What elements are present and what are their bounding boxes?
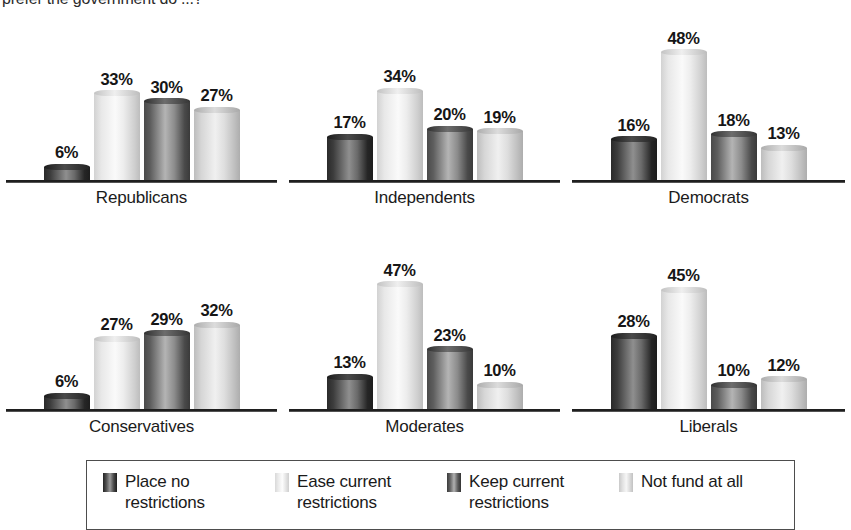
bar-series-2: [144, 98, 190, 180]
bar-cap: [427, 126, 473, 132]
bar-cap: [327, 374, 373, 380]
category-label: Liberals: [566, 417, 851, 437]
bar-value-label: 12%: [768, 357, 800, 374]
bar-series-0: [327, 134, 373, 180]
bar-series-0: [44, 393, 90, 409]
axis-baseline: [289, 180, 560, 183]
bar-item[interactable]: 48%: [661, 14, 707, 180]
bar-item[interactable]: 18%: [711, 14, 757, 180]
bar-series-0: [611, 136, 657, 180]
bar-value-label: 32%: [201, 302, 233, 319]
bar-item[interactable]: 29%: [144, 243, 190, 409]
bar-body: [327, 137, 373, 180]
legend-label-0: Place norestrictions: [125, 471, 205, 513]
bar-item[interactable]: 28%: [611, 243, 657, 409]
bar-value-label: 19%: [484, 109, 516, 126]
bar-item[interactable]: 12%: [761, 243, 807, 409]
bar-value-label: 23%: [434, 327, 466, 344]
bar-value-label: 6%: [55, 144, 78, 161]
axis-baseline: [289, 409, 560, 412]
bar-series-1: [94, 336, 140, 409]
bar-item[interactable]: 34%: [377, 14, 423, 180]
bar-cap: [711, 131, 757, 137]
bar-item[interactable]: 47%: [377, 243, 423, 409]
chart-panel-moderates: 13%47%23%10%Moderates: [283, 243, 566, 448]
bar-body: [94, 339, 140, 409]
bar-item[interactable]: 19%: [477, 14, 523, 180]
bar-value-label: 20%: [434, 106, 466, 123]
bar-series-3: [194, 322, 240, 409]
bar-item[interactable]: 27%: [194, 14, 240, 180]
bar-series-0: [327, 374, 373, 409]
legend-item-2[interactable]: Keep currentrestrictions: [447, 471, 619, 513]
bar-cap: [194, 107, 240, 113]
bar-cap: [94, 90, 140, 96]
bar-item[interactable]: 10%: [711, 243, 757, 409]
chart-panel-democrats: 16%48%18%13%Democrats: [566, 14, 851, 219]
bar-value-label: 48%: [668, 30, 700, 47]
bar-series-1: [377, 281, 423, 409]
bar-body: [327, 377, 373, 409]
bar-item[interactable]: 13%: [327, 243, 373, 409]
bar-item[interactable]: 6%: [44, 14, 90, 180]
bar-cap: [194, 322, 240, 328]
bar-cap: [761, 145, 807, 151]
bar-cap: [377, 281, 423, 287]
series-1-swatch-icon: [275, 473, 289, 492]
bar-item[interactable]: 6%: [44, 243, 90, 409]
bar-series-2: [427, 346, 473, 409]
bar-series-2: [144, 330, 190, 409]
bar-cap: [661, 49, 707, 55]
legend-item-1[interactable]: Ease currentrestrictions: [275, 471, 447, 513]
bar-body: [377, 91, 423, 180]
chart-panel-liberals: 28%45%10%12%Liberals: [566, 243, 851, 448]
bar-body: [711, 134, 757, 180]
bar-series-3: [761, 145, 807, 180]
legend-label-1: Ease currentrestrictions: [297, 471, 391, 513]
legend-item-3[interactable]: Not fund at all: [619, 471, 791, 492]
bar-cap: [611, 333, 657, 339]
bar-body: [194, 325, 240, 409]
chart-panel-independents: 17%34%20%19%Independents: [283, 14, 566, 219]
bar-series-2: [711, 382, 757, 409]
legend-item-0[interactable]: Place norestrictions: [103, 471, 275, 513]
bar-item[interactable]: 10%: [477, 243, 523, 409]
bar-body: [194, 110, 240, 180]
bar-body: [611, 336, 657, 409]
bar-cap: [377, 88, 423, 94]
bar-value-label: 29%: [151, 311, 183, 328]
bar-value-label: 10%: [484, 362, 516, 379]
bar-group: 28%45%10%12%: [566, 243, 851, 409]
bar-value-label: 18%: [718, 112, 750, 129]
bar-item[interactable]: 27%: [94, 243, 140, 409]
bar-value-label: 45%: [668, 267, 700, 284]
bar-item[interactable]: 32%: [194, 243, 240, 409]
bar-value-label: 6%: [55, 373, 78, 390]
bar-item[interactable]: 16%: [611, 14, 657, 180]
bar-item[interactable]: 13%: [761, 14, 807, 180]
bar-item[interactable]: 33%: [94, 14, 140, 180]
bar-group: 17%34%20%19%: [283, 14, 566, 180]
category-label: Republicans: [0, 188, 283, 208]
bar-value-label: 30%: [151, 79, 183, 96]
bar-body: [661, 290, 707, 409]
bar-item[interactable]: 45%: [661, 243, 707, 409]
bar-series-3: [477, 382, 523, 409]
bar-item[interactable]: 30%: [144, 14, 190, 180]
axis-baseline: [572, 180, 845, 183]
legend-label-2: Keep currentrestrictions: [469, 471, 564, 513]
chart-panel-conservatives: 6%27%29%32%Conservatives: [0, 243, 283, 448]
bar-cap: [761, 376, 807, 382]
bar-body: [144, 101, 190, 180]
category-label: Independents: [283, 188, 566, 208]
bar-item[interactable]: 17%: [327, 14, 373, 180]
bar-item[interactable]: 20%: [427, 14, 473, 180]
category-label: Conservatives: [0, 417, 283, 437]
bar-group: 13%47%23%10%: [283, 243, 566, 409]
bar-body: [144, 333, 190, 409]
bar-value-label: 34%: [384, 68, 416, 85]
bar-value-label: 10%: [718, 362, 750, 379]
bar-item[interactable]: 23%: [427, 243, 473, 409]
series-3-swatch-icon: [619, 473, 633, 492]
chart-panel-republicans: 6%33%30%27%Republicans: [0, 14, 283, 219]
